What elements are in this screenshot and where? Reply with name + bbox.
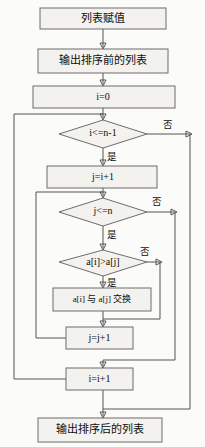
node-print-before-label: 输出排序前的列表 — [59, 53, 147, 66]
node-i-init-label: i=0 — [96, 91, 109, 102]
edge-label-inner-yes: 是 — [107, 230, 117, 240]
node-j-init[interactable]: j=i+1 — [47, 166, 157, 188]
node-print-before[interactable]: 输出排序前的列表 — [38, 49, 168, 73]
bubble-sort-flowchart: 列表赋值 输出排序前的列表 i=0 i<=n-1 否 是 j=i+1 j<=n — [0, 0, 205, 447]
node-init-list-label: 列表赋值 — [81, 11, 125, 24]
edge-label-outer-no: 否 — [163, 120, 173, 130]
node-print-after[interactable]: 输出排序后的列表 — [38, 418, 162, 442]
edge-label-inner-no: 否 — [152, 197, 162, 207]
node-cond-inner-label: j<=n — [92, 205, 112, 216]
node-i-incr-label: i=i+1 — [89, 373, 111, 384]
node-j-incr[interactable]: j=j+1 — [66, 327, 133, 349]
node-cond-outer-label: i<=n-1 — [89, 127, 116, 138]
node-cond-compare[interactable]: a[i]>a[j] — [59, 250, 147, 276]
node-cond-compare-label: a[i]>a[j] — [86, 256, 119, 267]
edge-label-compare-no: 否 — [140, 247, 150, 257]
node-j-init-label: j=i+1 — [91, 171, 114, 182]
node-print-after-label: 输出排序后的列表 — [56, 422, 144, 435]
node-i-init[interactable]: i=0 — [33, 86, 175, 108]
node-init-list[interactable]: 列表赋值 — [40, 8, 166, 29]
edge-label-compare-yes: 是 — [107, 278, 117, 288]
node-cond-outer[interactable]: i<=n-1 — [59, 120, 147, 148]
node-cond-inner[interactable]: j<=n — [59, 198, 147, 226]
node-swap-label: a[i] 与 a[j] 交换 — [73, 293, 132, 304]
node-swap[interactable]: a[i] 与 a[j] 交换 — [53, 288, 151, 311]
node-i-incr[interactable]: i=i+1 — [66, 368, 133, 390]
edge-label-outer-yes: 是 — [107, 152, 117, 162]
node-j-incr-label: j=j+1 — [88, 332, 111, 343]
flowchart-canvas: 列表赋值 输出排序前的列表 i=0 i<=n-1 否 是 j=i+1 j<=n — [0, 0, 205, 447]
